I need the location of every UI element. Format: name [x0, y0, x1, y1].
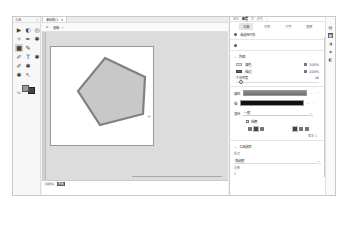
vertical-ruler	[42, 32, 46, 180]
document-tab[interactable]: 未标题-1 ×	[42, 16, 67, 22]
more-icon[interactable]: ···	[313, 101, 316, 105]
panel-header-tab[interactable]: »	[266, 17, 268, 21]
stroke-color-swatch[interactable]	[28, 87, 35, 94]
swatches-icon[interactable]: ◧	[328, 57, 333, 62]
chevron-down-icon: ⌄	[317, 159, 320, 163]
panel-header-tab[interactable]: 库	[251, 17, 254, 21]
blend-mode-select[interactable]: 一般 ⌄	[243, 110, 313, 116]
tools-panel-title: 工具	[15, 17, 21, 22]
crosshair-icon: +	[147, 113, 151, 119]
type-icon[interactable]: T	[24, 53, 32, 61]
artboard[interactable]: +	[50, 46, 154, 146]
panel-header-tab[interactable]: 属性	[233, 17, 239, 21]
style-label: 样式	[230, 151, 325, 157]
stroke-row[interactable]: 描边 100%	[230, 68, 325, 75]
stroke-row-label: 描	[234, 101, 237, 106]
color-swatches: ⇆	[16, 84, 37, 96]
chevron-down-icon: ⌄	[61, 25, 64, 29]
eyedropper-icon[interactable]: ✐	[15, 62, 23, 70]
align-right-icon[interactable]	[260, 127, 264, 131]
sides-value[interactable]: 5	[230, 171, 325, 177]
fill-opacity-icon	[304, 63, 307, 66]
rectangle-icon[interactable]: ■	[15, 44, 23, 52]
pen-icon[interactable]	[299, 127, 303, 131]
rotate-icon[interactable]: ✱	[33, 53, 41, 61]
fill-color-row: 填充 ⌄ ···	[230, 88, 325, 98]
stroke-chip[interactable]	[236, 70, 242, 73]
align-center-icon[interactable]	[254, 127, 258, 131]
blend-mode-row: 混合 一般 ⌄	[230, 108, 325, 118]
libraries-icon[interactable]: ◑	[328, 41, 333, 46]
slider-knob[interactable]	[239, 80, 243, 84]
isolate-checkbox[interactable]	[246, 120, 249, 123]
properties-icon[interactable]: ▤	[328, 25, 333, 30]
chevron-down-icon: ⌄	[309, 111, 312, 115]
fill-row-label: 填充	[234, 91, 240, 96]
direct-selection-icon[interactable]: ◐	[24, 26, 32, 34]
scale-icon[interactable]: ✱	[24, 62, 32, 70]
fill-label: 填色	[245, 62, 251, 67]
distribute-icon[interactable]	[293, 127, 297, 131]
stroke-opacity-value[interactable]: 100%	[309, 70, 319, 74]
hand-icon[interactable]: ✱	[15, 71, 23, 79]
panel-tab[interactable]: 文字	[281, 23, 295, 30]
panel-tab[interactable]: 对象	[260, 23, 274, 30]
close-icon[interactable]: ×	[61, 18, 64, 22]
zoom-level[interactable]: 100%	[44, 182, 55, 186]
collapse-icon[interactable]: «	[36, 18, 38, 22]
document-tab-label: 未标题-1	[46, 17, 59, 22]
artboard-svg: +	[51, 47, 155, 147]
settings-icon[interactable]	[234, 44, 237, 47]
fill-chip[interactable]	[236, 63, 242, 66]
opacity-value[interactable]: 86	[315, 76, 319, 80]
panel-tab[interactable]: 变换	[302, 23, 316, 30]
appearance-section-header[interactable]: ⌄ 外观	[230, 52, 325, 61]
fill-color-swatch[interactable]	[22, 85, 29, 92]
horizontal-scrollbar[interactable]	[132, 176, 222, 177]
chevron-down-icon[interactable]: ⌄	[310, 91, 313, 95]
align-left-icon[interactable]	[248, 127, 252, 131]
no-selection-row: 未选择对象	[230, 30, 325, 38]
pencil-icon[interactable]	[305, 127, 309, 131]
align-row	[230, 125, 325, 133]
appearance-title: 外观	[239, 54, 245, 59]
settings-row	[230, 41, 325, 49]
panel-header-tab[interactable]: 颜色	[257, 17, 263, 21]
fill-row[interactable]: 填色 100%	[230, 61, 325, 68]
stroke-color-bar[interactable]	[240, 100, 304, 106]
fill-opacity-value[interactable]: 100%	[309, 63, 319, 67]
document-area: 未标题-1 × ⌂ 画板 ⌄ + 100% 画板	[42, 17, 228, 195]
lasso-icon[interactable]: ◎	[33, 26, 41, 34]
curvature-icon[interactable]: ✱	[33, 35, 41, 43]
tool-options-title: 工具选项	[239, 144, 251, 149]
swap-colors-icon[interactable]: ⇆	[17, 90, 20, 95]
color-icon[interactable]: ◈	[328, 49, 333, 54]
brush-icon[interactable]: ✐	[15, 53, 23, 61]
chevron-down-icon: ⌄	[234, 55, 237, 59]
home-icon[interactable]: ⌂	[46, 25, 48, 29]
stroke-color-row: 描 ⌄ ···	[230, 98, 325, 108]
fill-color-bar[interactable]	[243, 90, 307, 96]
pentagon-shape[interactable]	[78, 58, 145, 125]
layers-icon[interactable]: ▦	[328, 33, 333, 38]
chevron-down-icon[interactable]: ⌄	[307, 101, 310, 105]
selection-icon[interactable]: ▶	[15, 26, 23, 34]
zoom-icon[interactable]: ↖	[24, 71, 32, 79]
tool-slot	[33, 71, 41, 79]
panel-header-tab[interactable]: 图层	[242, 17, 248, 21]
opacity-slider-row: 不透明度 86	[230, 75, 325, 85]
more-icon[interactable]: ···	[316, 91, 319, 95]
opacity-slider[interactable]	[236, 81, 319, 84]
blend-label: 混合	[234, 111, 240, 116]
panel-tab[interactable]: 工具	[239, 23, 253, 30]
pencil-icon[interactable]: ✎	[24, 44, 32, 52]
tool-options-header[interactable]: ⌄ 工具选项	[230, 142, 325, 151]
style-select[interactable]: 角选框 ⌄	[234, 158, 321, 164]
isolate-row[interactable]: 隔离	[230, 118, 325, 125]
pen-icon[interactable]: ✒	[24, 35, 32, 43]
artboard-navigator[interactable]: 画板	[57, 182, 65, 186]
canvas-viewport[interactable]: +	[42, 32, 228, 180]
preset-select[interactable]: 画板 ⌄	[53, 25, 64, 30]
version-label: 版本 1	[230, 133, 325, 139]
magic-wand-icon[interactable]: ✧	[15, 35, 23, 43]
